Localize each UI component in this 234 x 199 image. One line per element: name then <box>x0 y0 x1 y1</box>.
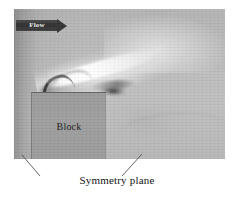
flow-direction-arrow: Flow <box>16 20 70 31</box>
flow-arrow-label: Flow <box>29 22 45 29</box>
block-label: Block <box>57 121 82 132</box>
flow-arrow-head-icon <box>57 19 67 33</box>
flow-arrow-shaft: Flow <box>16 20 58 31</box>
flow-visualization-figure: Block Flow Symmetry plane <box>0 0 234 199</box>
symmetry-plane-caption: Symmetry plane <box>0 174 234 186</box>
visualization-panel: Block Flow <box>14 9 225 159</box>
block-body: Block <box>31 92 106 159</box>
